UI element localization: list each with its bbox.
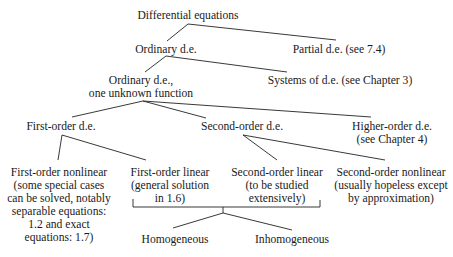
node-first-order-nonlinear: First-order nonlinear (some special case… [7,166,111,244]
node-second-order-nonlinear: Second-order nonlinear (usually hopeless… [334,166,447,205]
edge-linear-inhomogeneous [223,213,292,230]
edge-second-linear [243,135,277,160]
edge-oneunknown-higher [143,101,371,117]
edge-ordinary-systems [166,56,287,72]
node-first-order-linear: First-order linear (general solution in … [131,166,210,205]
node-label: First-order d.e. [26,120,95,133]
node-label-line: equations: 1.7) [7,231,111,244]
node-label-line: extensively) [231,192,323,205]
node-one-unknown-function: Ordinary d.e., one unknown function [89,74,193,100]
node-label-line: (general solution [131,179,210,192]
node-partial: Partial d.e. (see 7.4) [293,43,386,56]
edge-root-ordinary [167,24,188,41]
node-label: Systems of d.e. (see Chapter 3) [268,74,413,87]
node-differential-equations: Differential equations [137,9,238,22]
node-inhomogeneous: Inhomogeneous [255,233,329,246]
node-label-line: 1.2 and exact [7,218,111,231]
node-label-line: Second-order linear [231,166,323,179]
node-label-line: (usually hopeless except [334,179,447,192]
node-systems: Systems of d.e. (see Chapter 3) [268,74,413,87]
node-label-line: by approximation) [334,192,447,205]
node-first-order: First-order d.e. [26,120,95,133]
node-label-line: (see Chapter 4) [352,133,432,146]
node-label-line: Ordinary d.e., [89,74,193,87]
node-label: Differential equations [137,9,238,22]
node-second-order: Second-order d.e. [201,120,283,133]
node-label-line: Second-order nonlinear [334,166,447,179]
node-label: Inhomogeneous [255,233,329,246]
node-label: Partial d.e. (see 7.4) [293,43,386,56]
node-label-line: one unknown function [89,87,193,100]
edge-first-nonlinear [58,135,62,160]
node-label-line: separable equations: [7,205,111,218]
edge-ordinary-oneunknown [145,56,166,72]
node-ordinary: Ordinary d.e. [135,43,197,56]
edge-oneunknown-first [72,101,143,117]
node-homogeneous: Homogeneous [142,233,209,246]
node-label: Ordinary d.e. [135,43,197,56]
node-label-line: First-order linear [131,166,210,179]
node-label-line: First-order nonlinear [7,166,111,179]
node-higher-order: Higher-order d.e. (see Chapter 4) [352,120,432,146]
node-label-line: (some special cases [7,179,111,192]
edge-first-linear [62,135,146,160]
node-second-order-linear: Second-order linear (to be studied exten… [231,166,323,205]
node-label-line: (to be studied [231,179,323,192]
node-label: Homogeneous [142,233,209,246]
node-label-line: can be solved, notably [7,192,111,205]
node-label: Second-order d.e. [201,120,283,133]
node-label-line: in 1.6) [131,192,210,205]
edge-root-partial [188,24,336,40]
node-label-line: Higher-order d.e. [352,120,432,133]
edge-linear-homogeneous [173,213,223,228]
